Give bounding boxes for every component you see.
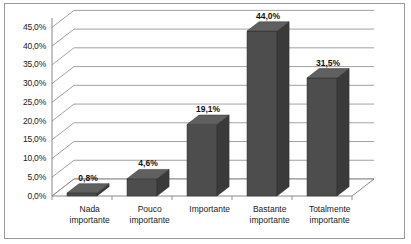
x-axis-category-line: Totalmente — [296, 204, 364, 215]
data-label: 4,6% — [123, 158, 173, 168]
x-axis-category-line: importante — [56, 215, 124, 226]
x-axis-category-label: Importante — [176, 204, 244, 215]
y-axis-tick-label: 20,0% — [4, 116, 46, 126]
x-axis-category-line: Nada — [56, 204, 124, 215]
y-axis-tick-label: 45,0% — [4, 22, 46, 32]
x-axis-category-line: Importante — [176, 204, 244, 215]
data-label: 19,1% — [183, 104, 233, 114]
x-axis-category-label: Nadaimportante — [56, 204, 124, 225]
y-axis-tick-label: 35,0% — [4, 59, 46, 69]
data-label: 44,0% — [243, 11, 293, 21]
y-axis-tick-label: 15,0% — [4, 134, 46, 144]
y-axis-tick-label: 10,0% — [4, 153, 46, 163]
y-axis-tick-label: 5,0% — [4, 172, 46, 182]
y-axis-tick-label: 40,0% — [4, 41, 46, 51]
x-axis-category-line: importante — [296, 215, 364, 226]
data-label: 31,5% — [303, 58, 353, 68]
x-axis-category-line: Pouco — [116, 204, 184, 215]
x-axis-category-label: Poucoimportante — [116, 204, 184, 225]
data-label: 0,8% — [63, 173, 113, 183]
x-axis-category-line: Bastante — [236, 204, 304, 215]
y-axis-tick-label: 30,0% — [4, 78, 46, 88]
y-axis-tick-label: 0,0% — [4, 191, 46, 201]
x-axis-category-line: importante — [116, 215, 184, 226]
x-axis-category-line: importante — [236, 215, 304, 226]
x-axis-category-label: Totalmenteimportante — [296, 204, 364, 225]
y-axis-tick-label: 25,0% — [4, 97, 46, 107]
x-axis-category-label: Bastanteimportante — [236, 204, 304, 225]
category-axis-ticks — [52, 196, 352, 200]
